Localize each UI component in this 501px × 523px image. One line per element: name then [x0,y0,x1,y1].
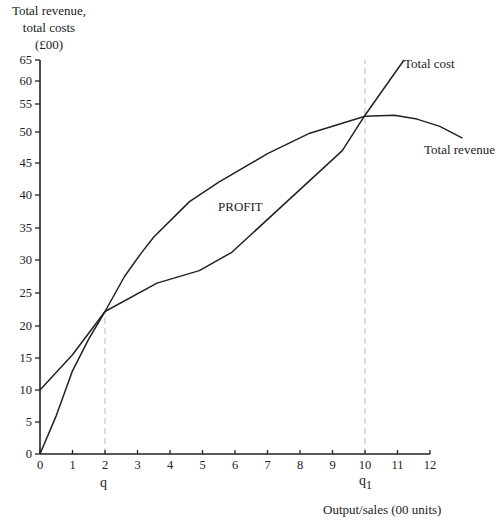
chart-canvas: 0510152025303540455055606501234567891011… [0,0,501,523]
total-cost-line [40,60,404,390]
x-tick-label: 7 [264,458,270,472]
y-tick-label: 40 [20,188,33,202]
series-lines [40,60,463,454]
x-tick-label: 8 [297,458,303,472]
q1-marker-label: q1 [359,473,372,493]
x-tick-label: 1 [69,458,75,472]
y-tick-label: 55 [20,97,33,111]
q1-subscript: 1 [366,478,372,492]
y-tick-label: 30 [20,253,33,267]
x-tick-label: 9 [329,458,335,472]
y-tick-label: 65 [20,53,33,67]
total-revenue-label: Total revenue [424,142,495,158]
x-tick-label: 3 [134,458,140,472]
x-tick-label: 5 [199,458,205,472]
x-tick-label: 0 [37,458,43,472]
x-tick-label: 4 [167,458,174,472]
x-tick-label: 11 [391,458,403,472]
total-revenue-line [40,115,463,454]
y-tick-label: 0 [26,447,32,461]
y-tick-label: 10 [20,383,33,397]
y-tick-label: 50 [20,125,33,139]
y-tick-label: 45 [20,156,33,170]
y-tick-label: 15 [20,351,33,365]
x-tick-label: 12 [424,458,437,472]
y-tick-label: 25 [20,286,33,300]
q-marker-label: q [100,475,107,491]
q1-base: q [359,473,366,488]
x-axis-title: Output/sales (00 units) [323,502,441,518]
y-tick-label: 20 [20,319,33,333]
x-tick-label: 10 [359,458,372,472]
x-tick-label: 2 [102,458,108,472]
x-tick-label: 6 [232,458,238,472]
y-tick-label: 5 [26,415,32,429]
reference-lines [105,60,365,454]
y-tick-label: 60 [20,74,33,88]
y-tick-label: 35 [20,221,33,235]
profit-label: PROFIT [218,199,263,215]
total-cost-label: Total cost [404,56,455,72]
